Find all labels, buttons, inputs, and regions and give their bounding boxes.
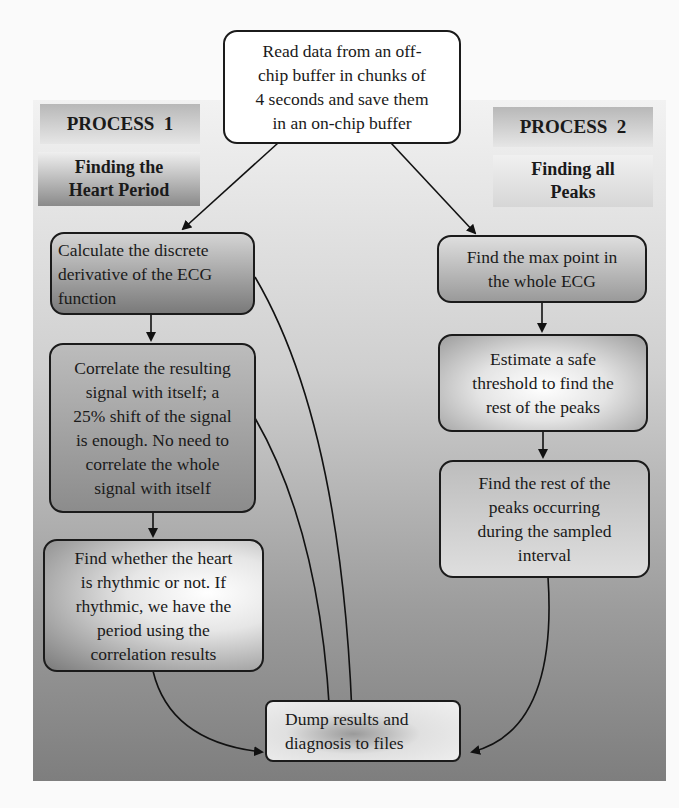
node-dump-results: Dump results and diagnosis to files [265, 700, 461, 762]
node-max-point: Find the max point in the whole ECG [437, 235, 647, 303]
node-discrete-derivative-label: Calculate the discrete derivative of the… [58, 238, 212, 310]
node-safe-threshold: Estimate a safe threshold to find the re… [438, 334, 648, 432]
node-read-data-label: Read data from an off- chip buffer in ch… [255, 39, 428, 135]
node-correlate-signal-label: Correlate the resulting signal with itse… [73, 356, 231, 500]
node-read-data: Read data from an off- chip buffer in ch… [223, 30, 461, 144]
node-dump-results-label: Dump results and diagnosis to files [285, 707, 408, 755]
node-find-rest-peaks-label: Find the rest of the peaks occurring dur… [477, 471, 611, 567]
node-max-point-label: Find the max point in the whole ECG [467, 245, 618, 293]
node-discrete-derivative: Calculate the discrete derivative of the… [50, 232, 255, 315]
node-find-rest-peaks: Find the rest of the peaks occurring dur… [439, 460, 650, 578]
node-rhythmic-check: Find whether the heart is rhythmic or no… [43, 539, 264, 672]
node-correlate-signal: Correlate the resulting signal with itse… [49, 343, 256, 513]
node-safe-threshold-label: Estimate a safe threshold to find the re… [472, 347, 613, 419]
node-rhythmic-check-label: Find whether the heart is rhythmic or no… [75, 546, 233, 666]
